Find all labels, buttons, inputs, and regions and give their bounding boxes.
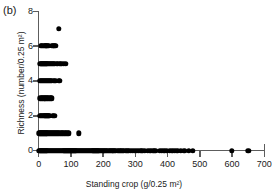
data-point	[57, 78, 62, 83]
y-tick-label-8: 8	[3, 7, 33, 16]
data-point	[56, 26, 61, 31]
y-tick-label-4: 4	[3, 76, 33, 85]
data-point	[63, 61, 68, 66]
data-point	[245, 148, 250, 153]
data-point	[229, 148, 234, 153]
data-point	[66, 131, 71, 136]
data-point	[190, 148, 195, 153]
x-axis-right-cap	[264, 144, 265, 151]
x-tick-500	[199, 151, 200, 157]
y-tick-8	[33, 11, 39, 12]
y-tick-label-2: 2	[3, 111, 33, 120]
x-tick-700	[264, 151, 265, 157]
data-point	[76, 131, 81, 136]
data-point	[53, 43, 58, 48]
figure-panel: (b) Richness (number/0.25 m²) Standing c…	[0, 0, 274, 193]
y-tick-label-0: 0	[3, 146, 33, 155]
x-tick-label-700: 700	[244, 160, 274, 169]
x-axis-label: Standing crop (g/0.25 m²)	[34, 179, 234, 189]
data-point	[51, 113, 56, 118]
y-tick-label-6: 6	[3, 42, 33, 51]
data-point	[49, 96, 54, 101]
